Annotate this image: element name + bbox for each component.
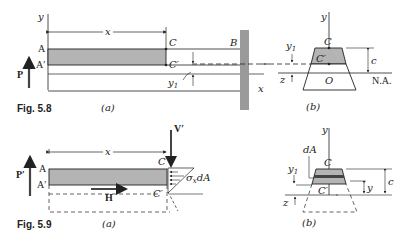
label-B: B [229, 37, 237, 48]
y-axis-label: y [37, 11, 44, 22]
b-yvar-label: y [366, 182, 373, 193]
label-A-prime: A′ [36, 59, 45, 70]
figure-page: y x A A′ C C′ B y1 x P Fig. 5.8 (a) [0, 0, 408, 246]
x-dimension-label: x [105, 26, 111, 37]
b-c-label: c [371, 55, 377, 66]
b-NA-label: N.A. [372, 75, 391, 86]
label-x-axis: x [258, 83, 264, 94]
b-y-label: y [320, 11, 327, 22]
fig58-caption: Fig. 5.8 [17, 103, 52, 114]
label-A: A [38, 43, 46, 54]
b-y1-label: y1 [287, 163, 298, 176]
b-O-label: O [325, 75, 333, 86]
fig58-part-b-label: (b) [306, 101, 320, 112]
label-y1: y1 [167, 77, 178, 90]
label-P: P [17, 69, 23, 80]
label-A-prime: A′ [37, 179, 46, 190]
b-y1-label: y1 [285, 40, 296, 53]
shaded-section [49, 169, 167, 185]
b-dA-label: dA [303, 144, 317, 155]
b-c-label: c [388, 176, 394, 187]
b-y-label: y [321, 124, 328, 135]
fig59-part-a-label: (a) [102, 218, 116, 229]
label-P-prime: P′ [16, 169, 25, 180]
fig59-caption: Fig. 5.9 [17, 219, 52, 230]
label-C: C [169, 37, 177, 48]
dA-strip [314, 175, 344, 178]
fig58-b-cross-section: y c y1 z C C′ O N.A. (b) [261, 11, 392, 112]
fig59-b-cross-section: y dA C C′ y1 z c y (b) [282, 124, 394, 228]
fig59-part-b-label: (b) [302, 217, 316, 228]
b-C-label: C [324, 157, 332, 168]
b-z-label: z [279, 74, 286, 85]
fixed-wall [240, 30, 249, 110]
b-z-label: z [282, 197, 289, 208]
label-C: C [158, 156, 166, 167]
diagram-canvas: y x A A′ C C′ B y1 x P Fig. 5.8 (a) [0, 0, 408, 246]
fig58-a-beam: y x A A′ C C′ B y1 x P Fig. 5.8 (a) [17, 11, 270, 114]
fig59-a-free-body: x V′ σxdA H A A′ C C′ P′ Fig. 5.9 (a) [16, 123, 210, 230]
b-C-label: C [324, 36, 332, 47]
label-H: H [105, 192, 113, 203]
label-C-prime: C′ [153, 188, 164, 199]
label-C-prime: C′ [169, 59, 180, 70]
fig58-part-a-label: (a) [101, 102, 115, 113]
label-sigma-dA: σxdA [186, 172, 210, 185]
b-C-prime-label: C′ [316, 53, 327, 64]
x-dimension-label: x [105, 146, 111, 157]
label-A: A [39, 163, 47, 174]
b-C-prime-label: C′ [318, 185, 329, 196]
shaded-section [48, 49, 166, 65]
label-V-prime: V′ [174, 123, 184, 134]
